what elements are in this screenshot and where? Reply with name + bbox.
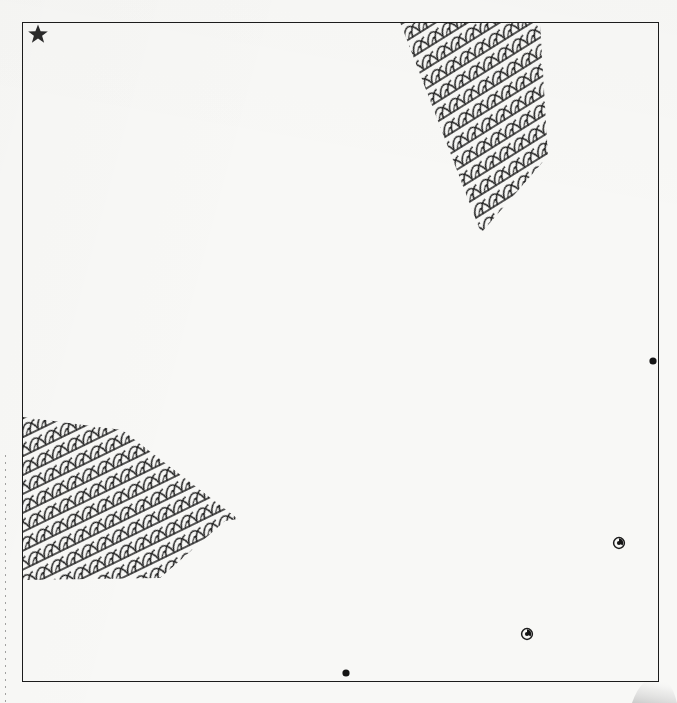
drawing-sheet (0, 0, 677, 703)
scan-binding-dotted-line-artifact (5, 455, 6, 703)
circled-node-icon (518, 625, 536, 643)
north-point-star-marker[interactable] (27, 23, 49, 45)
survey-point-bottom-marker[interactable] (338, 665, 354, 681)
survey-node-right-lower-marker[interactable] (610, 534, 628, 552)
drawing-border (22, 22, 659, 682)
survey-point-right-marker[interactable] (645, 353, 661, 369)
filled-dot-icon (645, 353, 661, 369)
star-icon (27, 23, 49, 45)
survey-node-bottom-center-marker[interactable] (518, 625, 536, 643)
filled-dot-icon (338, 665, 354, 681)
circled-node-icon (610, 534, 628, 552)
